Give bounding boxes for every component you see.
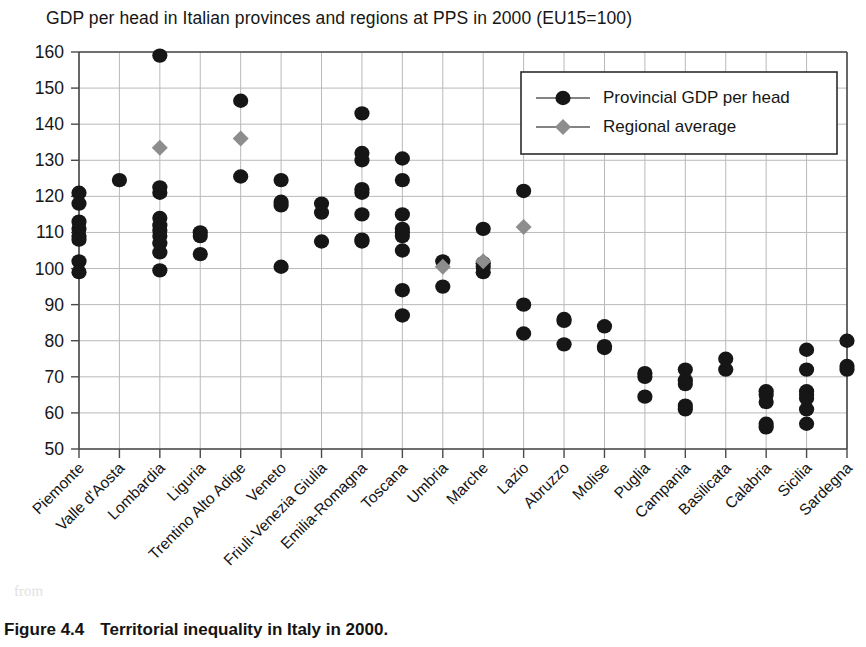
data-point-provincial [637,389,652,403]
data-point-provincial [152,186,167,200]
data-point-provincial [395,283,410,297]
data-point-provincial [435,279,450,293]
x-tick-label: Molise [569,459,613,503]
y-tick-label: 100 [35,259,64,279]
y-tick-label: 70 [45,367,65,387]
y-tick-label: 60 [45,403,65,423]
data-point-provincial [516,297,531,311]
data-point-provincial [395,173,410,187]
data-point-provincial [597,341,612,355]
data-point-provincial [516,326,531,340]
legend-label: Regional average [603,117,736,136]
data-point-provincial [395,308,410,322]
data-point-provincial [152,245,167,259]
data-point-provincial [678,377,693,391]
data-point-provincial [274,173,289,187]
data-point-provincial [354,186,369,200]
data-point-provincial [839,334,854,348]
y-tick-label: 130 [35,150,64,170]
x-tick-label: Marche [443,459,492,508]
data-point-provincial [71,265,86,279]
page-bleed-text: from [14,582,44,599]
data-point-provincial [314,205,329,219]
data-point-provincial [274,260,289,274]
data-point-provincial [597,319,612,333]
legend-box [521,72,837,154]
data-point-provincial [395,207,410,221]
data-point-provincial [354,106,369,120]
data-point-provincial [71,196,86,210]
data-point-provincial [799,362,814,376]
data-point-provincial [274,198,289,212]
data-point-provincial [395,243,410,257]
y-tick-label: 150 [35,78,64,98]
data-point-provincial [152,263,167,277]
data-point-provincial [799,343,814,357]
y-tick-label: 110 [36,222,64,242]
data-point-provincial [354,234,369,248]
data-point-provincial [233,94,248,108]
figure-caption-text: Territorial inequality in Italy in 2000. [100,620,388,639]
y-tick-label: 90 [45,295,65,315]
data-point-provincial [354,153,369,167]
y-tick-label: 120 [35,186,64,206]
data-point-provincial [839,362,854,376]
figure-caption: Figure 4.4Territorial inequality in Ital… [4,620,388,640]
legend-marker-circle-icon [555,91,570,105]
x-tick-label: Abruzzo [520,459,572,511]
data-point-provincial [233,169,248,183]
data-point-provincial [799,402,814,416]
data-point-provincial [476,222,491,236]
data-point-provincial [637,370,652,384]
figure-container: GDP per head in Italian provinces and re… [0,0,866,647]
data-point-provincial [354,207,369,221]
data-point-provincial [152,48,167,62]
data-point-provincial [799,417,814,431]
data-point-provincial [193,247,208,261]
figure-number: Figure 4.4 [4,620,84,639]
data-point-provincial [193,229,208,243]
data-point-provincial [718,362,733,376]
data-point-provincial [71,232,86,246]
data-point-provincial [395,229,410,243]
data-point-provincial [556,337,571,351]
data-point-provincial [516,184,531,198]
y-tick-label: 160 [35,42,64,62]
scatter-plot: from5060708090100110120130140150160Piemo… [0,0,866,600]
x-tick-label: Umbria [404,459,452,507]
y-tick-label: 80 [45,331,65,351]
data-point-provincial [556,314,571,328]
data-point-provincial [314,234,329,248]
data-point-provincial [112,173,127,187]
data-point-provincial [759,420,774,434]
y-tick-label: 50 [45,439,65,459]
data-point-provincial [678,402,693,416]
y-tick-label: 140 [35,114,64,134]
data-point-regional-average [233,131,249,147]
legend-label: Provincial GDP per head [603,88,790,107]
data-point-regional-average [152,140,168,156]
data-point-provincial [395,151,410,165]
data-point-provincial [759,395,774,409]
x-tick-label: Lazio [494,459,532,497]
